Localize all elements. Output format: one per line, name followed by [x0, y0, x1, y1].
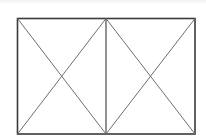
diagram-canvas [0, 0, 206, 140]
